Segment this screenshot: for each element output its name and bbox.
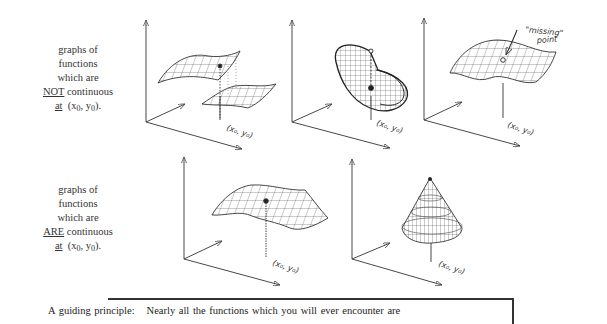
point-label: (x₀, y₀): [506, 120, 535, 137]
cone-surface: [402, 178, 462, 243]
point-label: (x₀, y₀): [225, 123, 254, 140]
point-label: (x₀, y₀): [375, 118, 404, 135]
spiral-surface-back: [335, 45, 407, 111]
missing-point-marker: [501, 58, 506, 63]
principle-lead: A guiding principle:: [48, 305, 135, 316]
saddle-surface: [212, 185, 328, 229]
lower-surface: [202, 84, 276, 108]
figure-sketches: (x₀, y₀) (x₀, y₀) "missing" point (x₀, y…: [0, 0, 607, 324]
principle-text: Nearly all the functions which you will …: [147, 305, 401, 316]
guiding-principle: A guiding principle:Nearly all the funct…: [48, 305, 400, 316]
graph-smooth-surface: [184, 157, 328, 285]
point-label: (x₀, y₀): [437, 259, 466, 276]
principle-box-border-right: [512, 298, 514, 324]
missing-annotation-line2: point: [536, 35, 559, 46]
principle-box-border-top: [108, 298, 514, 300]
axes: [424, 18, 520, 146]
point-label: (x₀, y₀): [271, 258, 300, 275]
graph-jump-discontinuity: [146, 20, 276, 149]
